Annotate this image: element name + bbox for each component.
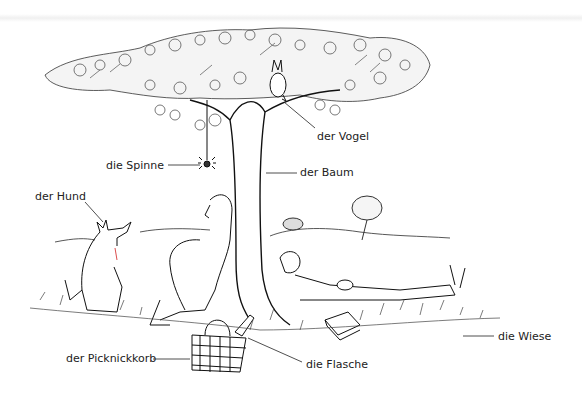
- label-die-spinne: die Spinne: [106, 159, 164, 172]
- leader-lines: [85, 102, 494, 362]
- label-der-vogel: der Vogel: [317, 130, 369, 143]
- label-die-wiese: die Wiese: [498, 330, 551, 343]
- picnic-basket: [192, 320, 246, 372]
- lying-man: [280, 252, 465, 300]
- dog: [65, 220, 131, 312]
- label-die-flasche: die Flasche: [306, 358, 368, 371]
- sitting-woman: [150, 195, 232, 325]
- spider: [198, 100, 216, 169]
- hills: [55, 229, 450, 242]
- label-der-hund: der Hund: [35, 190, 86, 203]
- picnic-illustration: [0, 0, 582, 397]
- label-der-baum: der Baum: [300, 166, 354, 179]
- tree-canopy: [45, 28, 430, 130]
- label-der-picknickkorb: der Picknickkorb: [66, 352, 156, 365]
- distant-bush: [283, 218, 303, 230]
